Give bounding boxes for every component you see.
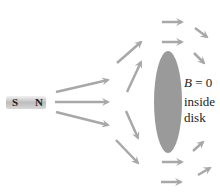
- bar-magnet: S N: [6, 96, 46, 109]
- field-label-line1: B = 0: [184, 76, 212, 90]
- north-pole-label: N: [35, 96, 43, 109]
- disk: [154, 51, 182, 153]
- south-pole-label: S: [12, 96, 18, 109]
- field-label-line3: disk: [184, 111, 206, 125]
- field-label-line2: inside: [184, 95, 215, 109]
